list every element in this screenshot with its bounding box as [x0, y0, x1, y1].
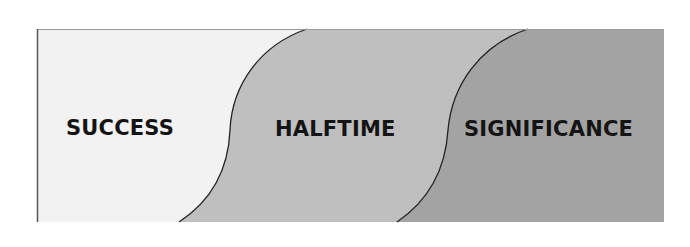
three-stage-diagram: SUCCESS HALFTIME SIGNIFICANCE: [0, 0, 690, 247]
stage-label-significance: SIGNIFICANCE: [464, 117, 633, 141]
stage-label-success: SUCCESS: [66, 116, 174, 140]
stage-label-halftime: HALFTIME: [275, 117, 396, 141]
